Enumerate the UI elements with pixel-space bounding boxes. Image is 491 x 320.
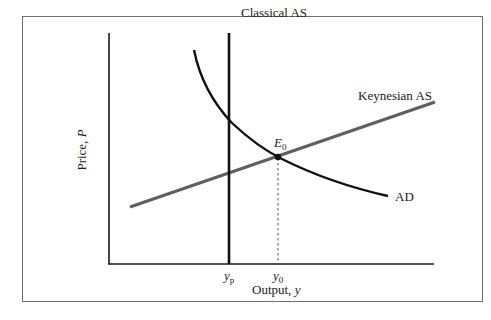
e0-label-base: E — [274, 135, 282, 150]
yp-tick-label: yp — [224, 269, 234, 285]
keynesian-as-line — [130, 102, 435, 207]
x-axis-label-var: y — [295, 282, 301, 297]
e0-label: E0 — [274, 136, 286, 152]
keynesian-as-label: Keynesian AS — [358, 89, 432, 102]
e0-label-sub: 0 — [282, 142, 287, 152]
classical-as-label: Classical AS — [241, 6, 307, 19]
y-axis-label-var: P — [74, 129, 89, 137]
y-axis-label: Price, P — [74, 129, 90, 170]
ad-label: AD — [395, 190, 414, 203]
x-axis-label: Output, y — [252, 283, 300, 296]
x-axis-label-text: Output, — [252, 282, 295, 297]
equilibrium-point-e0 — [275, 154, 281, 160]
yp-sub: p — [230, 275, 235, 285]
y-axis-label-text: Price, — [74, 137, 89, 170]
